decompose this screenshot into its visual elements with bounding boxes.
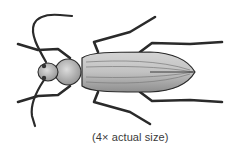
beetle-icon	[0, 0, 235, 128]
beetle-illustration	[0, 0, 235, 128]
figure-caption: (4× actual size)	[92, 131, 169, 143]
